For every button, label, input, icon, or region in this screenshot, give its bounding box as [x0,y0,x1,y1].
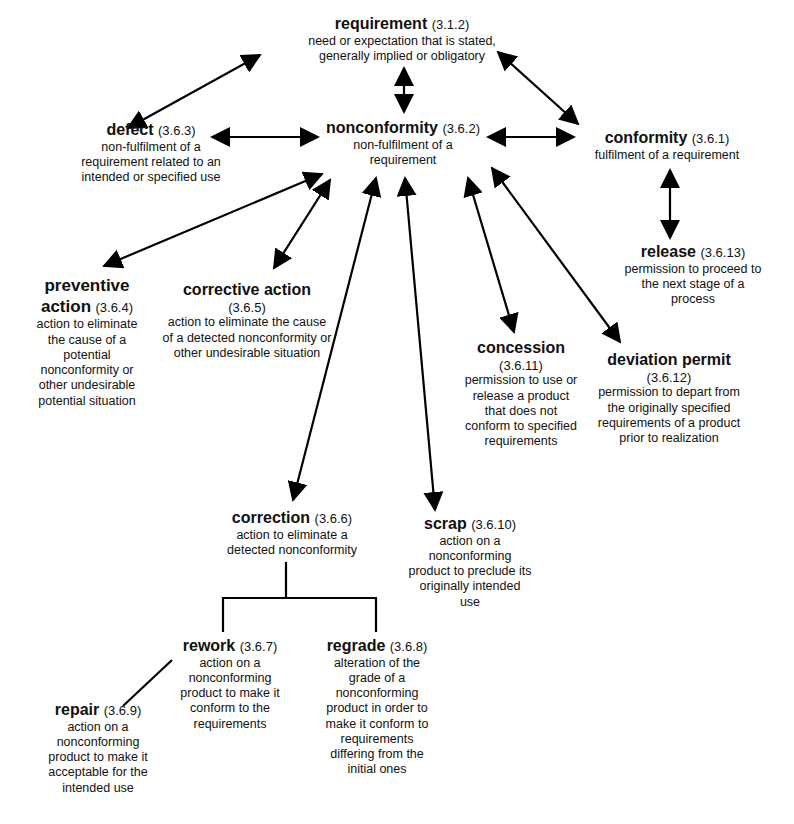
node-defect: defect (3.6.3) non-fulfilment of a requi… [72,120,230,185]
term-nonconformity: nonconformity [326,119,438,136]
node-nonconformity: nonconformity (3.6.2) non-fulfilment of … [318,118,488,168]
node-rework: rework (3.6.7) action on a nonconforming… [168,636,292,732]
term-concession: concession [477,339,565,356]
edge-requirement-defect [128,55,260,128]
ref-rework: (3.6.7) [240,639,278,654]
node-deviation-permit: deviation permit (3.6.12) permission to … [588,350,750,446]
ref-scrap: (3.6.10) [471,517,516,532]
edge-nonconformity-preventive [104,174,322,266]
ref-regrade: (3.6.8) [390,639,428,654]
def-nonconformity: non-fulfilment of a requirement [343,138,463,169]
def-repair: action on a nonconforming product to mak… [40,720,156,796]
ref-concession: (3.6.11) [462,358,580,374]
def-rework: action on a nonconforming product to mak… [174,656,286,732]
def-defect: non-fulfilment of a requirement related … [72,140,230,186]
term-scrap: scrap [424,515,467,532]
ref-conformity: (3.6.1) [692,131,730,146]
ref-nonconformity: (3.6.2) [442,121,480,136]
def-conformity: fulfilment of a requirement [576,148,758,163]
node-preventive-action: preventive action (3.6.4) action to elim… [28,276,146,409]
term-conformity: conformity [605,129,688,146]
edge-nonconformity-concession [468,178,514,332]
ref-deviation-permit: (3.6.12) [588,370,750,386]
ref-correction: (3.6.6) [315,511,353,526]
def-requirement: need or expectation that is stated, gene… [283,34,521,65]
term-rework: rework [183,637,235,654]
node-concession: concession (3.6.11) permission to use or… [462,338,580,450]
def-concession: permission to use or release a product t… [462,373,580,449]
def-scrap: action on a nonconforming product to pre… [408,534,532,610]
term-regrade: regrade [327,637,386,654]
def-correction: action to eliminate a detected nonconfor… [217,528,367,559]
node-correction: correction (3.6.6) action to eliminate a… [212,508,372,558]
term-release: release [641,243,696,260]
def-deviation-permit: permission to depart from the originally… [588,385,750,446]
term-correction: correction [232,509,310,526]
node-scrap: scrap (3.6.10) action on a nonconforming… [402,514,538,610]
ref-release: (3.6.13) [700,245,745,260]
ref-requirement: (3.1.2) [432,17,470,32]
term-repair: repair [55,701,99,718]
edge-nonconformity-corrective [274,180,330,268]
node-repair: repair (3.6.9) action on a nonconforming… [36,700,160,796]
ref-preventive-action: (3.6.4) [95,300,133,315]
term-corrective-action: corrective action [183,281,311,298]
ref-defect: (3.6.3) [158,123,196,138]
def-corrective-action: action to eliminate the cause of a detec… [162,315,332,361]
edge-correction-rework-regrade [223,598,376,632]
def-preventive-action: action to eliminate the cause of a poten… [28,317,146,409]
term-defect: defect [106,121,153,138]
node-conformity: conformity (3.6.1) fulfilment of a requi… [576,128,758,163]
node-release: release (3.6.13) permission to proceed t… [618,242,768,307]
ref-corrective-action: (3.6.5) [162,300,332,316]
def-regrade: alteration of the grade of a nonconformi… [320,656,434,778]
term-deviation-permit: deviation permit [607,351,731,368]
node-corrective-action: corrective action (3.6.5) action to elim… [162,280,332,361]
node-requirement: requirement (3.1.2) need or expectation … [262,14,542,64]
ref-repair: (3.6.9) [104,703,142,718]
def-release: permission to proceed to the next stage … [618,262,768,308]
edge-nonconformity-scrap [405,178,435,510]
term-requirement: requirement [335,15,427,32]
edge-nonconformity-deviation [492,168,620,342]
node-regrade: regrade (3.6.8) alteration of the grade … [316,636,438,778]
